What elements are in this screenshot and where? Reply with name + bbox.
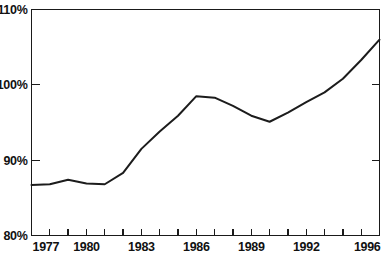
y-tick-label-90: 90% — [3, 154, 27, 168]
y-axis-labels: 110%100%90%80% — [0, 3, 28, 243]
x-tick-label-1983: 1983 — [128, 240, 155, 254]
x-tick-label-1977: 1977 — [33, 240, 60, 254]
x-tick-label-1992: 1992 — [293, 240, 320, 254]
x-tick-label-1980: 1980 — [73, 240, 100, 254]
y-tick-label-80: 80% — [3, 229, 27, 243]
data-line-series-index — [32, 40, 380, 185]
line-chart: 110%100%90%80% 1977198019831986198919921… — [0, 0, 392, 260]
plot-frame — [32, 10, 380, 236]
y-tick-label-100: 100% — [0, 78, 28, 92]
y-tick-label-110: 110% — [0, 3, 28, 17]
chart-canvas: 110%100%90%80% 1977198019831986198919921… — [0, 0, 392, 260]
x-tick-label-1989: 1989 — [238, 240, 265, 254]
data-series-group — [32, 40, 380, 185]
x-axis-ticks — [32, 229, 380, 236]
x-tick-label-1996: 1996 — [354, 240, 381, 254]
chart-title — [0, 0, 392, 1]
x-axis-labels: 1977198019831986198919921996 — [33, 240, 381, 254]
x-tick-label-1986: 1986 — [183, 240, 210, 254]
plot-border — [32, 10, 380, 236]
